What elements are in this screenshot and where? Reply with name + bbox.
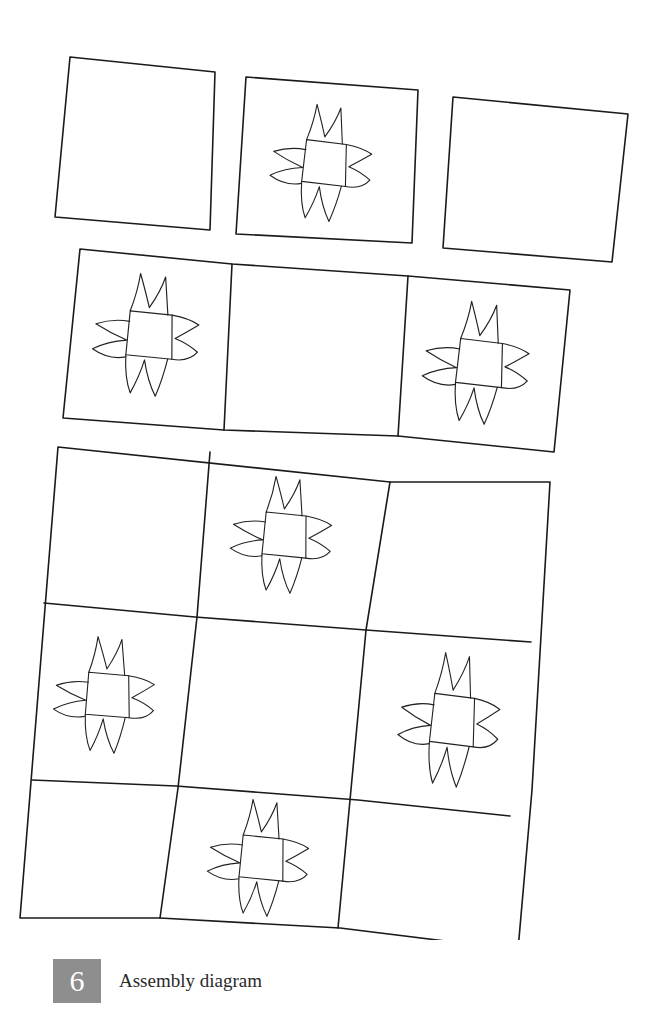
block-star: [52, 635, 156, 754]
block-star: [236, 77, 418, 243]
block-star: [90, 271, 201, 398]
panel-3x3: [20, 447, 550, 940]
block-plain: [55, 57, 215, 230]
block-star: [205, 797, 311, 918]
row-1: [55, 57, 628, 262]
figure-title: Assembly diagram: [119, 970, 262, 992]
block-star: [228, 474, 334, 595]
block-star: [419, 298, 532, 427]
assembly-diagram: [0, 0, 650, 940]
block-star: [394, 650, 503, 790]
figure-number-badge: 6: [53, 959, 101, 1003]
row-2: [63, 249, 570, 452]
figure-caption: 6 Assembly diagram: [53, 961, 262, 1001]
block-plain: [443, 97, 628, 262]
